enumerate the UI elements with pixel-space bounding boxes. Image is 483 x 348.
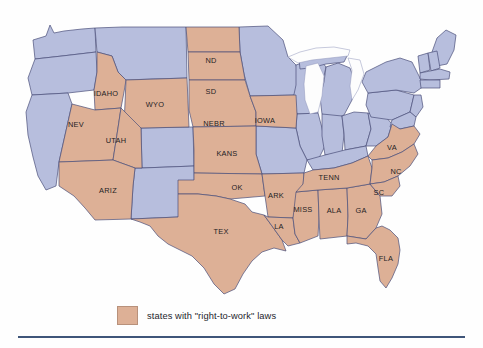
state-oregon <box>28 52 97 95</box>
map-label-ok: OK <box>231 183 242 192</box>
legend-label-right-to-work: states with "right-to-work" laws <box>147 311 276 321</box>
state-north-dakota <box>186 27 240 52</box>
state-connecticut-rhode-island <box>420 80 440 88</box>
map-label-ark: ARK <box>268 191 284 200</box>
map-label-tenn: TENN <box>318 173 339 182</box>
map-label-nev: NEV <box>68 120 84 129</box>
map-label-ariz: ARIZ <box>99 186 117 195</box>
map-label-miss: MISS <box>293 205 312 214</box>
map-label-nebr: NEBR <box>203 119 225 128</box>
map-label-sc: SC <box>374 188 385 197</box>
map-label-nd: ND <box>205 56 216 65</box>
state-minnesota <box>239 26 299 96</box>
state-mississippi <box>293 190 319 243</box>
map-label-ala: ALA <box>327 206 342 215</box>
state-colorado <box>141 127 194 168</box>
map-label-la: LA <box>274 222 284 231</box>
map-label-fla: FLA <box>379 254 393 263</box>
state-new-york <box>362 58 424 93</box>
state-michigan-lower <box>320 63 355 121</box>
us-right-to-work-map-figure: IDAHO WYO ND SD NEBR IOWA KANS NEV UTAH … <box>0 0 483 348</box>
map-label-ga: GA <box>355 206 366 215</box>
map-label-tex: TEX <box>213 227 228 236</box>
us-map-svg: IDAHO WYO ND SD NEBR IOWA KANS NEV UTAH … <box>0 0 483 348</box>
state-indiana <box>322 114 344 155</box>
map-legend: states with "right-to-work" laws <box>117 306 276 325</box>
map-label-sd: SD <box>206 87 217 96</box>
bottom-divider-rule <box>18 336 465 338</box>
map-label-iowa: IOWA <box>255 116 275 125</box>
map-label-va: VA <box>387 143 397 152</box>
legend-swatch-right-to-work <box>117 306 138 325</box>
map-label-kans: KANS <box>216 149 237 158</box>
state-arizona <box>59 160 135 220</box>
map-label-idaho: IDAHO <box>94 89 119 98</box>
map-label-utah: UTAH <box>106 136 127 145</box>
map-label-nc: NC <box>390 167 402 176</box>
map-label-wyo: WYO <box>146 100 164 109</box>
